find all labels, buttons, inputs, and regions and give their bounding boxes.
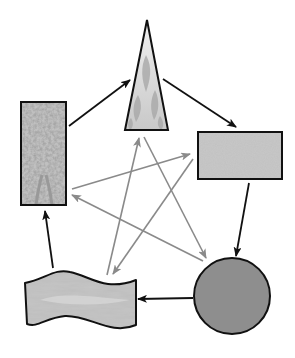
arrow-earth-to-water <box>113 159 193 274</box>
arrow-water-to-wood <box>45 211 53 268</box>
overcoming-cycle-arrows <box>72 137 206 275</box>
wood-element <box>21 102 66 205</box>
arrow-wood-to-fire <box>69 80 130 126</box>
metal-element <box>194 258 270 334</box>
arrow-water-to-fire <box>107 138 139 275</box>
fire-element <box>125 20 168 130</box>
water-element <box>25 268 137 338</box>
arrow-earth-to-metal <box>236 183 249 256</box>
five-elements-diagram: Wood Fire Earth Metal Water <box>0 0 295 358</box>
arrow-fire-to-metal <box>144 137 206 258</box>
earth-element <box>198 132 282 179</box>
arrow-metal-to-wood <box>72 195 203 261</box>
arrow-fire-to-earth <box>163 79 236 127</box>
arrow-metal-to-water <box>138 298 193 299</box>
